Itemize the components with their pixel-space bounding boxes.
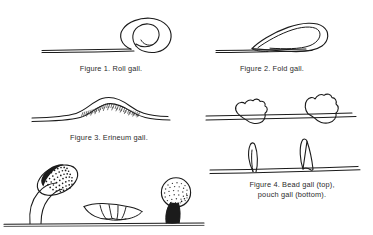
figure-4-pouch-galls (210, 139, 360, 174)
figure-4-caption: Figure 4. Bead gall (top), pouch gall (b… (216, 180, 368, 199)
stalked-gall-row (4, 159, 204, 226)
fringed-rosette-gall (84, 204, 142, 221)
figure-2-caption: Figure 2. Fold gall. (214, 64, 330, 74)
dark-stalked-ovoid-gall (30, 159, 83, 224)
figure-1-roll-gall (42, 18, 171, 52)
figure-2-fold-gall (216, 23, 328, 52)
figure-3-erineum-gall (32, 97, 170, 121)
figure-1-caption: Figure 1. Roll gall. (56, 64, 166, 74)
figure-3-caption: Figure 3. Erineum gall. (46, 133, 172, 143)
gall-types-plate (0, 0, 373, 235)
pale-capitate-gall (161, 178, 190, 224)
figure-4-bead-galls (206, 94, 356, 123)
